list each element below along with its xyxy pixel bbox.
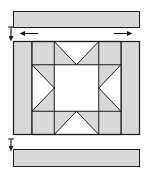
bottom-border-strip (14, 150, 140, 167)
top-border-strip (14, 12, 140, 28)
center-block-assembly (14, 42, 140, 135)
right-border-strip (121, 42, 140, 135)
quilt-block-diagram: Quilt block assembly diagram Sawtooth st… (0, 0, 147, 180)
height-dimension-arrow-top (8, 27, 14, 42)
height-dimension-arrow-bottom (8, 139, 14, 152)
diagram-canvas (0, 0, 147, 180)
sawtooth-star-block (32, 42, 121, 135)
center-square-unit (54, 65, 99, 112)
width-dimension-arrow-right (114, 31, 133, 36)
width-dimension-arrow-left (20, 31, 39, 36)
left-border-strip (14, 42, 33, 135)
